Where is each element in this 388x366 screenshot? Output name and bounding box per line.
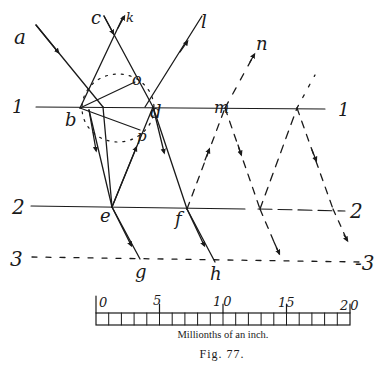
- scale-tick-10: 10: [213, 294, 234, 309]
- ray-b-apex: [80, 17, 124, 108]
- label-k: k: [126, 10, 134, 25]
- dashed-ray-down-3: [260, 209, 280, 256]
- label-h: h: [210, 263, 222, 284]
- scale-tick-0: 0: [99, 295, 107, 310]
- label-surface-1-left: 1: [12, 96, 23, 117]
- label-surface-1-right: 1: [338, 99, 349, 120]
- ray-e-g: [112, 207, 140, 259]
- ray-a-b: [36, 25, 103, 107]
- dashed-ray-m-down: [225, 108, 260, 209]
- label-p: p: [137, 127, 147, 145]
- label-surface-2-right: 2: [349, 199, 363, 223]
- dashed-ray-right-down: [297, 108, 347, 240]
- figure-caption: Fig. 77.: [199, 347, 244, 361]
- dashed-ray-up-right: [260, 75, 315, 209]
- label-d: d: [150, 101, 162, 122]
- label-c: c: [91, 7, 101, 28]
- label-surface-2-left: 2: [11, 195, 25, 219]
- label-n: n: [256, 33, 268, 54]
- scale-bar: 0 5 10 15 20 Millionths of an inch.: [96, 293, 361, 340]
- label-l: l: [201, 11, 207, 32]
- label-g: g: [135, 261, 147, 282]
- radius-b-p: [80, 108, 140, 130]
- label-surface-3-right: -3: [355, 251, 374, 275]
- ray-d-l: [145, 16, 202, 107]
- scale-tick-20: 20: [339, 298, 361, 313]
- label-o: o: [132, 70, 142, 89]
- radius-b-o: [80, 82, 135, 108]
- ray-b-e: [89, 107, 112, 207]
- label-f: f: [173, 208, 185, 229]
- dashed-ray-m-n: [225, 55, 254, 108]
- scale-tick-15: 15: [278, 295, 295, 310]
- ray-d-f: [153, 107, 187, 209]
- label-b: b: [65, 109, 77, 130]
- dashed-ray-f-m: [187, 108, 225, 209]
- label-e: e: [100, 205, 111, 226]
- label-m: m: [214, 98, 229, 117]
- ray-f-h: [187, 209, 215, 262]
- scale-tick-5: 5: [153, 293, 161, 308]
- label-a: a: [14, 25, 26, 49]
- thin-film-interference-diagram: a c k l n o b d p m e f g h 1 1 2 2 3 -3…: [0, 0, 388, 366]
- surface-line-3-dashed: [32, 257, 360, 262]
- scale-unit-label: Millionths of an inch.: [178, 329, 269, 340]
- label-surface-3-left: 3: [10, 247, 23, 271]
